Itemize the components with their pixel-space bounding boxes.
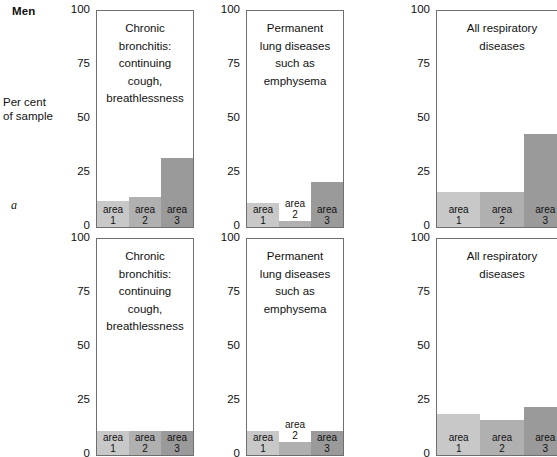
y-axis-tick-label: 25 (204, 394, 240, 406)
bar-label-area: area (167, 204, 187, 215)
bar-group: area1area2area3 (247, 11, 343, 227)
y-axis-tick-label: 50 (394, 340, 430, 352)
bar-label-area: area (317, 432, 337, 443)
bar-label: area3 (311, 432, 343, 454)
plot-area: Chronicbronchitis:continuingcough,breath… (96, 10, 194, 228)
bar (279, 442, 311, 455)
chart-panel-men-lung-diseases: 0255075100Permanentlung diseasessuch ase… (206, 0, 346, 228)
y-axis-tick-label: 50 (54, 112, 90, 124)
y-axis-tick-label: 100 (54, 232, 90, 244)
bar-label-area: area (253, 204, 273, 215)
bar-label: area3 (524, 432, 557, 454)
bar-label-number: 3 (524, 443, 557, 454)
bar-label-area: area (135, 204, 155, 215)
y-axis-tick-label: 0 (204, 448, 240, 457)
bar-label-area: area (253, 432, 273, 443)
y-axis-title-line2: of sample (3, 109, 53, 123)
bar-label: area1 (247, 432, 279, 454)
bar-label: area1 (97, 432, 129, 454)
chart-panel-men-chronic-bronchitis: 0255075100Chronicbronchitis:continuingco… (56, 0, 196, 228)
bar-label-area: area (103, 204, 123, 215)
bar-label-number: 3 (161, 443, 193, 454)
bar-label: area2 (129, 204, 161, 226)
y-axis-tick-label: 25 (394, 166, 430, 178)
bar-label: area3 (161, 432, 193, 454)
bar-label-number: 2 (480, 443, 523, 454)
y-axis-tick-label: 75 (394, 58, 430, 70)
y-axis-title-men: Per cent of sample (3, 95, 53, 123)
bar-label-number: 2 (480, 215, 523, 226)
bar-label-area: area (535, 204, 555, 215)
bar-label: area3 (311, 204, 343, 226)
y-axis-tick-labels: 0255075100 (56, 10, 90, 226)
y-axis-tick-label: 75 (204, 286, 240, 298)
y-axis-tick-labels: 0255075100 (396, 10, 430, 226)
bar-label-number: 3 (311, 443, 343, 454)
bar-label-area: area (449, 432, 469, 443)
plot-area: All respiratorydiseasesarea1area2area3 (436, 10, 557, 228)
bar-label: area1 (437, 432, 480, 454)
bar (279, 221, 311, 227)
y-axis-tick-labels: 0255075100 (206, 10, 240, 226)
bar-label-number: 1 (437, 215, 480, 226)
bar-label: area3 (524, 204, 557, 226)
y-axis-tick-label: 50 (54, 340, 90, 352)
respiratory-disease-bar-chart-figure: Men Per cent of sample a 0255075100Chron… (0, 0, 557, 457)
chart-panel-women-all-respiratory: 0255075100All respiratorydiseasesarea1ar… (396, 228, 557, 456)
bar-label-area: area (317, 204, 337, 215)
bar-label-area: area (535, 432, 555, 443)
y-axis-tick-label: 100 (394, 4, 430, 16)
y-axis-tick-label: 50 (204, 340, 240, 352)
bar-label-number: 2 (279, 209, 311, 220)
bar-label-area: area (103, 432, 123, 443)
bar-label-number: 3 (161, 215, 193, 226)
bar-label: area2 (480, 432, 523, 454)
bar-label-area: area (285, 419, 305, 430)
y-axis-tick-label: 50 (204, 112, 240, 124)
bar-group: area1area2area3 (97, 11, 193, 227)
y-axis-tick-label: 75 (204, 58, 240, 70)
bar-label: area1 (247, 204, 279, 226)
plot-area: Permanentlung diseasessuch asemphysemaar… (246, 238, 344, 456)
bar-label-area: area (135, 432, 155, 443)
chart-row-women: Women Per cent of sample b 0255075100Chr… (0, 228, 557, 456)
bar-label-number: 2 (279, 430, 311, 441)
y-axis-tick-label: 0 (394, 448, 430, 457)
bar-label-number: 1 (97, 215, 129, 226)
bar-group: area1area2area3 (247, 239, 343, 455)
y-axis-tick-label: 50 (394, 112, 430, 124)
bar-group: area1area2area3 (437, 11, 557, 227)
plot-area: Chronicbronchitis:continuingcough,breath… (96, 238, 194, 456)
bar-label-area: area (285, 198, 305, 209)
bar-label-number: 1 (247, 215, 279, 226)
y-axis-tick-label: 75 (54, 286, 90, 298)
bar-label-number: 2 (129, 443, 161, 454)
bar-label-number: 3 (311, 215, 343, 226)
chart-row-men: Men Per cent of sample a 0255075100Chron… (0, 0, 557, 228)
bar-group: area1area2area3 (97, 239, 193, 455)
bar-label: area2 (480, 204, 523, 226)
y-axis-tick-labels: 0255075100 (56, 238, 90, 454)
y-axis-tick-label: 100 (394, 232, 430, 244)
bar-label: area1 (437, 204, 480, 226)
bar-label-number: 3 (524, 215, 557, 226)
y-axis-tick-label: 25 (394, 394, 430, 406)
bar-label: area2 (279, 419, 311, 441)
y-axis-title-line1: Per cent (3, 95, 53, 109)
plot-area: Permanentlung diseasessuch asemphysemaar… (246, 10, 344, 228)
y-axis-tick-label: 75 (54, 58, 90, 70)
bar-label-area: area (492, 432, 512, 443)
bar-label-number: 1 (437, 443, 480, 454)
chart-panel-men-all-respiratory: 0255075100All respiratorydiseasesarea1ar… (396, 0, 557, 228)
y-axis-tick-label: 0 (54, 448, 90, 457)
y-axis-tick-labels: 0255075100 (396, 238, 430, 454)
chart-panel-women-lung-diseases: 0255075100Permanentlung diseasessuch ase… (206, 228, 346, 456)
bar-label-number: 1 (97, 443, 129, 454)
y-axis-tick-labels: 0255075100 (206, 238, 240, 454)
bar-label-area: area (492, 204, 512, 215)
bar-label: area2 (129, 432, 161, 454)
y-axis-tick-label: 100 (204, 4, 240, 16)
bar-label: area2 (279, 198, 311, 220)
panel-letter-a: a (11, 198, 17, 213)
chart-panel-women-chronic-bronchitis: 0255075100Chronicbronchitis:continuingco… (56, 228, 196, 456)
